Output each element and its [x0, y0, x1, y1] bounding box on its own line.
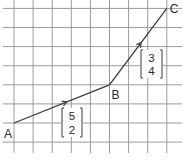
point-label-c: C	[170, 2, 179, 16]
vector-bc-y-component: 4	[148, 65, 155, 77]
vector-ab-y-component: 2	[69, 124, 75, 136]
column-vector-ab: 5 2	[61, 108, 83, 137]
vector-ab-x-component: 5	[69, 110, 75, 122]
vector-bc-x-component: 3	[148, 52, 154, 64]
vector-diagram: 5 2 3 4 A B C	[0, 0, 183, 166]
column-vector-bc: 3 4	[140, 50, 163, 78]
point-label-b: B	[112, 88, 120, 102]
point-label-a: A	[4, 127, 12, 141]
